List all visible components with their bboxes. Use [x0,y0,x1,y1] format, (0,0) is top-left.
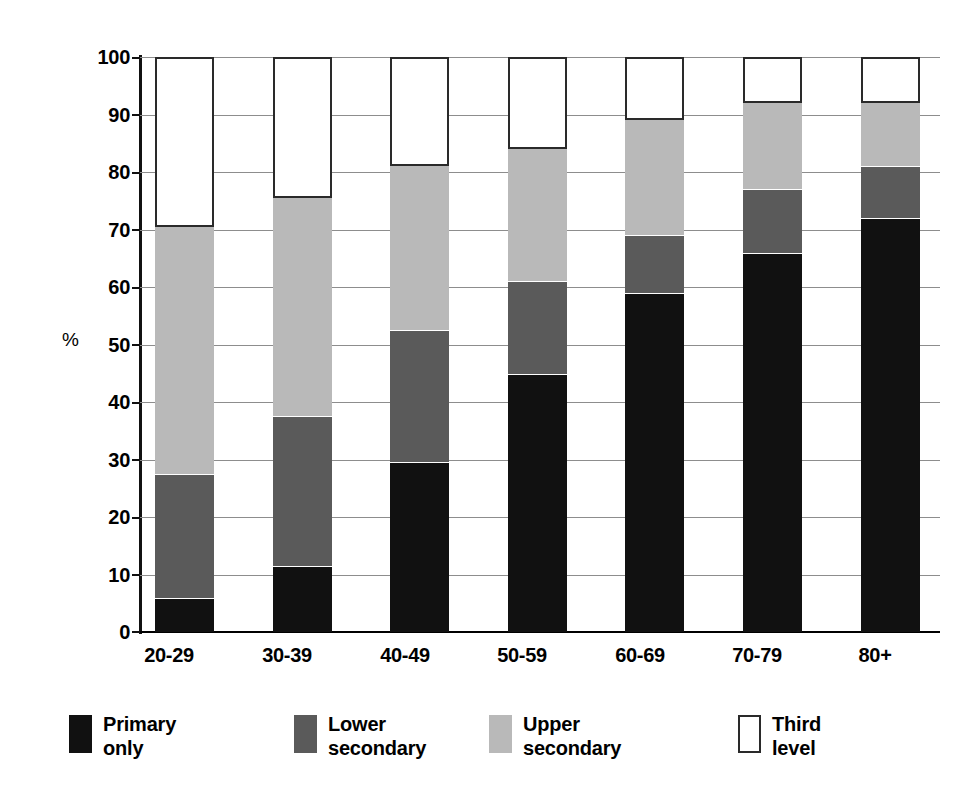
y-axis-unit-label: % [62,330,79,349]
segment-third-level-20-29 [155,57,214,227]
segment-primary-only-60-69 [625,293,684,632]
segment-primary-only-70-79 [743,253,802,633]
x-tick-80plus: 80+ [815,645,935,665]
legend-swatch-primary-only [69,715,92,753]
y-tick-40: 40 [70,392,130,412]
segment-lower-secondary-70-79 [743,189,802,252]
bar-20-29 [155,57,214,632]
stacked-bar-chart: 100 90 80 70 60 50 40 30 20 10 0 % [0,0,964,810]
chart-legend: Primary only Lower secondary Upper secon… [0,712,964,782]
segment-lower-secondary-50-59 [508,281,567,374]
segment-upper-secondary-30-39 [273,198,332,417]
segment-upper-secondary-60-69 [625,120,684,235]
legend-item-primary-only: Primary only [69,712,176,761]
y-tick-0: 0 [70,622,130,642]
legend-label-third-level: Third level [772,712,821,761]
y-tick-80: 80 [70,162,130,182]
segment-third-level-40-49 [390,57,449,166]
segment-lower-secondary-20-29 [155,474,214,598]
bar-70-79 [743,57,802,632]
segment-upper-secondary-40-49 [390,166,449,330]
segment-third-level-70-79 [743,57,802,103]
x-tick-20-29: 20-29 [109,645,229,665]
segment-third-level-60-69 [625,57,684,120]
segment-third-level-80plus [861,57,920,103]
x-tick-50-59: 50-59 [462,645,582,665]
segment-upper-secondary-20-29 [155,227,214,474]
y-axis-tick-labels: 100 90 80 70 60 50 40 30 20 10 0 [62,0,130,810]
plot-area [140,57,940,632]
legend-swatch-third-level [738,715,761,753]
segment-upper-secondary-80plus [861,103,920,166]
segment-lower-secondary-40-49 [390,330,449,462]
segment-upper-secondary-70-79 [743,103,802,189]
segment-primary-only-20-29 [155,598,214,633]
segment-third-level-30-39 [273,57,332,198]
segment-third-level-50-59 [508,57,567,149]
segment-primary-only-50-59 [508,374,567,632]
segment-primary-only-40-49 [390,462,449,632]
y-tick-60: 60 [70,277,130,297]
segment-lower-secondary-30-39 [273,416,332,566]
y-tick-100: 100 [70,47,130,67]
y-tick-20: 20 [70,507,130,527]
legend-item-third-level: Third level [738,712,821,761]
y-tick-50: 50 [70,335,130,355]
legend-label-primary-only: Primary only [103,712,176,761]
segment-primary-only-80plus [861,218,920,632]
x-tick-70-79: 70-79 [697,645,817,665]
y-tick-10: 10 [70,565,130,585]
legend-item-lower-secondary: Lower secondary [294,712,426,761]
segment-upper-secondary-50-59 [508,149,567,281]
bar-40-49 [390,57,449,632]
legend-item-upper-secondary: Upper secondary [489,712,621,761]
x-tick-40-49: 40-49 [345,645,465,665]
segment-lower-secondary-80plus [861,166,920,218]
legend-swatch-upper-secondary [489,715,512,753]
x-tick-30-39: 30-39 [227,645,347,665]
y-tick-90: 90 [70,105,130,125]
legend-label-lower-secondary: Lower secondary [328,712,426,761]
y-tick-30: 30 [70,450,130,470]
bar-60-69 [625,57,684,632]
segment-lower-secondary-60-69 [625,235,684,293]
y-tick-70: 70 [70,220,130,240]
segment-primary-only-30-39 [273,566,332,632]
bar-80plus [861,57,920,632]
bar-30-39 [273,57,332,632]
legend-swatch-lower-secondary [294,715,317,753]
bar-50-59 [508,57,567,632]
x-tick-60-69: 60-69 [580,645,700,665]
legend-label-upper-secondary: Upper secondary [523,712,621,761]
